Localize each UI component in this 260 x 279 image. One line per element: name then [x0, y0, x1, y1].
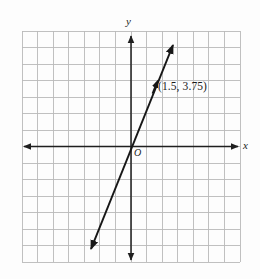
- point-coordinate-label: (1.5, 3.75): [158, 80, 207, 92]
- figure-background: [0, 0, 260, 279]
- x-axis-label: x: [243, 140, 248, 151]
- coordinate-plane-figure: y x O (1.5, 3.75): [0, 0, 260, 279]
- origin-label: O: [134, 148, 141, 158]
- graph-canvas: [0, 0, 260, 279]
- y-axis-label: y: [126, 16, 131, 27]
